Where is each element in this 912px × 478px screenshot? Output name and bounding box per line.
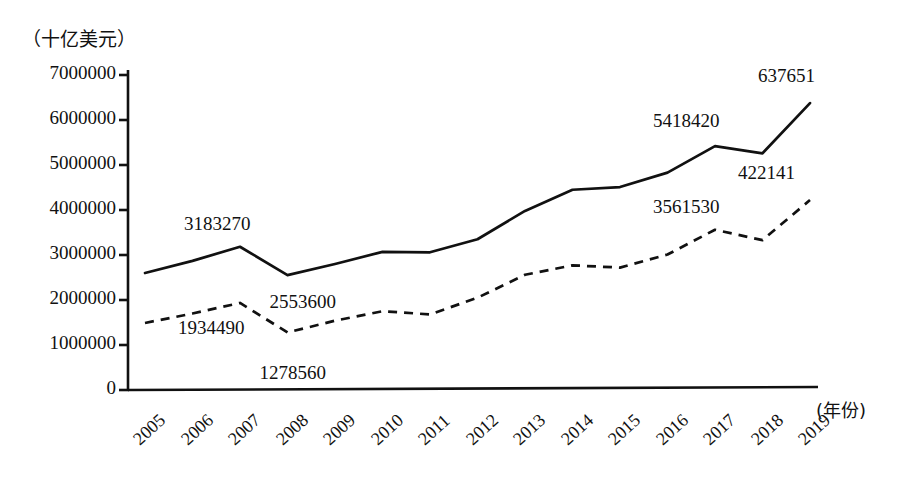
plot-area <box>0 0 912 478</box>
dashed-line-series <box>145 200 810 332</box>
solid-line-series <box>145 103 810 275</box>
x-axis-line <box>128 387 818 390</box>
line-chart: （十亿美元） (年份) 0100000020000003000000400000… <box>0 0 912 478</box>
